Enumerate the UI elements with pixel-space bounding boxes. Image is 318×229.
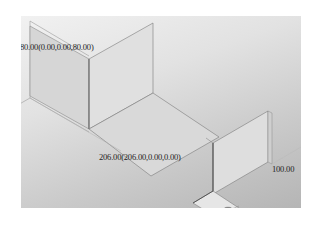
right-flange-edge [268,111,272,164]
cad-viewport[interactable]: 80.00(0.00,0.00,80.00) 206.00(206.00,0.0… [21,16,301,208]
width-dimension-label: 100.00 [272,164,294,174]
right-flange-front [213,111,268,194]
height-dimension-label: 80.00(0.00,0.00,80.00) [21,42,94,52]
length-dimension-label: 206.00(206.00,0.00,0.00) [99,152,181,162]
bottom-tab [193,191,251,208]
